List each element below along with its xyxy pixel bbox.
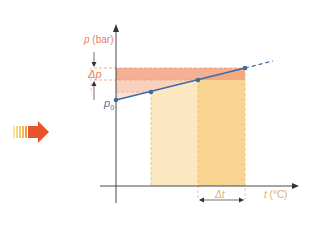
yellow-area-dark	[198, 68, 245, 186]
delta-p-label: Δp	[88, 68, 102, 80]
point-p0	[114, 98, 119, 103]
right-arrow-icon	[13, 121, 49, 143]
x-axis-var: t	[264, 189, 267, 200]
point-4	[243, 66, 248, 71]
y-axis-var: p	[84, 34, 90, 45]
point-3	[196, 78, 201, 83]
x-axis-unit: (°C)	[270, 189, 288, 200]
delta-p-band-dark	[116, 68, 245, 80]
point-2	[149, 90, 154, 95]
yellow-area-light	[151, 80, 198, 186]
y-axis-unit: (bar)	[92, 34, 113, 45]
y-axis-label: p (bar)	[84, 34, 113, 45]
delta-t-label: Δt	[215, 189, 225, 200]
pressure-line-extension	[245, 61, 273, 68]
p0-label: p0	[104, 97, 114, 111]
p0-sub: 0	[110, 104, 114, 111]
y-axis	[113, 24, 119, 203]
x-axis-label: t (°C)	[264, 189, 287, 200]
